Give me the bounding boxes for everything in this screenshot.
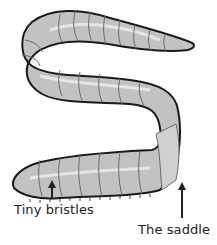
- label-the-saddle: The saddle: [138, 222, 210, 237]
- worm-diagram: Tiny bristles The saddle: [0, 0, 217, 245]
- worm-body: [13, 11, 194, 203]
- arrow-saddle: [178, 182, 186, 218]
- label-tiny-bristles: Tiny bristles: [14, 202, 94, 217]
